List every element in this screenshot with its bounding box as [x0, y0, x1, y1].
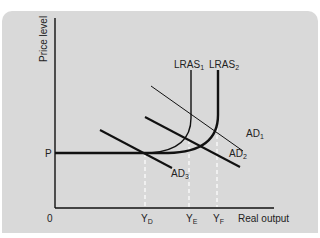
y-axis-label: Price level	[38, 16, 49, 62]
lras2-curve	[55, 70, 218, 153]
ad3-label: AD3	[171, 168, 189, 180]
origin-label: 0	[47, 213, 53, 224]
ad3-curve	[100, 130, 172, 168]
price-label: P	[45, 148, 52, 159]
ad-lras-diagram: Price level Real output 0 P LRAS1 LRAS2 …	[0, 0, 320, 238]
x-axis-label: Real output	[238, 213, 289, 224]
ad1-curve	[151, 86, 243, 151]
yd-label: YD	[141, 213, 153, 225]
ad1-label: AD1	[246, 128, 264, 140]
ye-label: YE	[186, 213, 198, 225]
lras2-label: LRAS2	[209, 59, 239, 71]
yf-label: YF	[213, 213, 224, 225]
ad2-curve	[145, 117, 240, 167]
lras1-curve	[150, 70, 191, 153]
lras1-label: LRAS1	[174, 59, 204, 71]
ad2-label: AD2	[229, 148, 247, 160]
